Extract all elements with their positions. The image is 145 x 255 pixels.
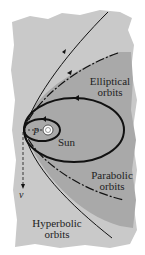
sun-label: Sun <box>58 137 75 148</box>
hyperbolic-orbits-label: Hyperbolic orbits <box>22 218 92 240</box>
elliptical-orbits-label: Elliptical orbits <box>80 76 140 98</box>
parabolic-label-line2: orbits <box>82 181 142 192</box>
parabolic-orbits-label: Parabolic orbits <box>82 170 142 192</box>
elliptical-label-line2: orbits <box>80 87 140 98</box>
hyperbolic-label-line2: orbits <box>22 229 92 240</box>
sun-icon <box>43 125 53 135</box>
velocity-label: v <box>19 189 23 200</box>
periapsis-label: P <box>33 126 39 137</box>
